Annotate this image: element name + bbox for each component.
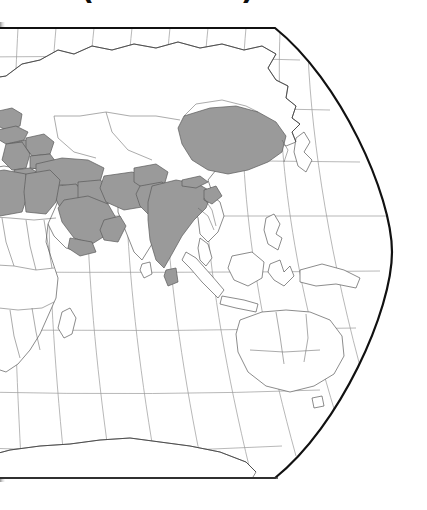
figure-caption-clip: (see text) [0,0,427,20]
figure-page: (see text) [0,0,427,510]
world-map-svg [0,20,427,490]
new-zealand [376,360,392,394]
map-body [0,20,427,490]
map-container [0,20,427,490]
tasmania [312,396,324,408]
figure-caption: (see text) [38,0,298,4]
